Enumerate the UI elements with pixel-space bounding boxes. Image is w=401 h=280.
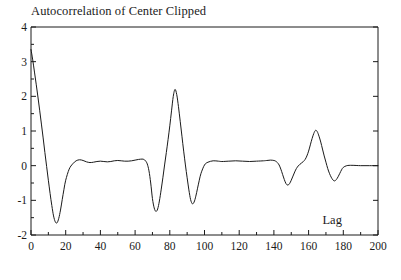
y-tick-label: 2	[2, 90, 27, 102]
x-tick-label: 160	[300, 240, 317, 252]
x-tick-label: 60	[129, 240, 141, 252]
x-tick-label: 0	[28, 240, 34, 252]
y-tick-label: 1	[2, 125, 27, 137]
y-tick-label: 4	[2, 21, 27, 33]
x-tick-label: 100	[196, 240, 213, 252]
x-tick-label: 80	[164, 240, 176, 252]
y-tick-label: -1	[2, 194, 27, 206]
y-tick-label: 3	[2, 56, 27, 68]
plot-area	[0, 0, 401, 280]
x-tick-label: 20	[60, 240, 72, 252]
chart-figure: Autocorrelation of Center Clipped -2-101…	[0, 0, 401, 280]
x-tick-label: 200	[369, 240, 386, 252]
x-tick-label: 120	[231, 240, 248, 252]
x-tick-label: 40	[95, 240, 107, 252]
y-tick-label: 0	[2, 160, 27, 172]
x-axis-title: Lag	[322, 213, 341, 228]
axis-ticks	[31, 27, 378, 235]
x-tick-label: 180	[335, 240, 352, 252]
axis-frame	[31, 27, 378, 235]
y-tick-label: -2	[2, 229, 27, 241]
data-series-line	[31, 50, 378, 224]
x-tick-label: 140	[265, 240, 282, 252]
